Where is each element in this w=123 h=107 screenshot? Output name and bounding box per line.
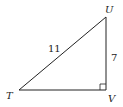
side-label-uv: 7 (111, 52, 117, 63)
vertex-label-v: V (108, 93, 117, 104)
vertex-label-t: T (6, 90, 14, 101)
triangle-diagram: U V T 11 7 (0, 0, 123, 107)
triangle-tuv (19, 17, 106, 90)
side-label-tu: 11 (48, 43, 61, 54)
vertex-label-u: U (105, 4, 114, 15)
right-angle-marker (100, 84, 106, 90)
